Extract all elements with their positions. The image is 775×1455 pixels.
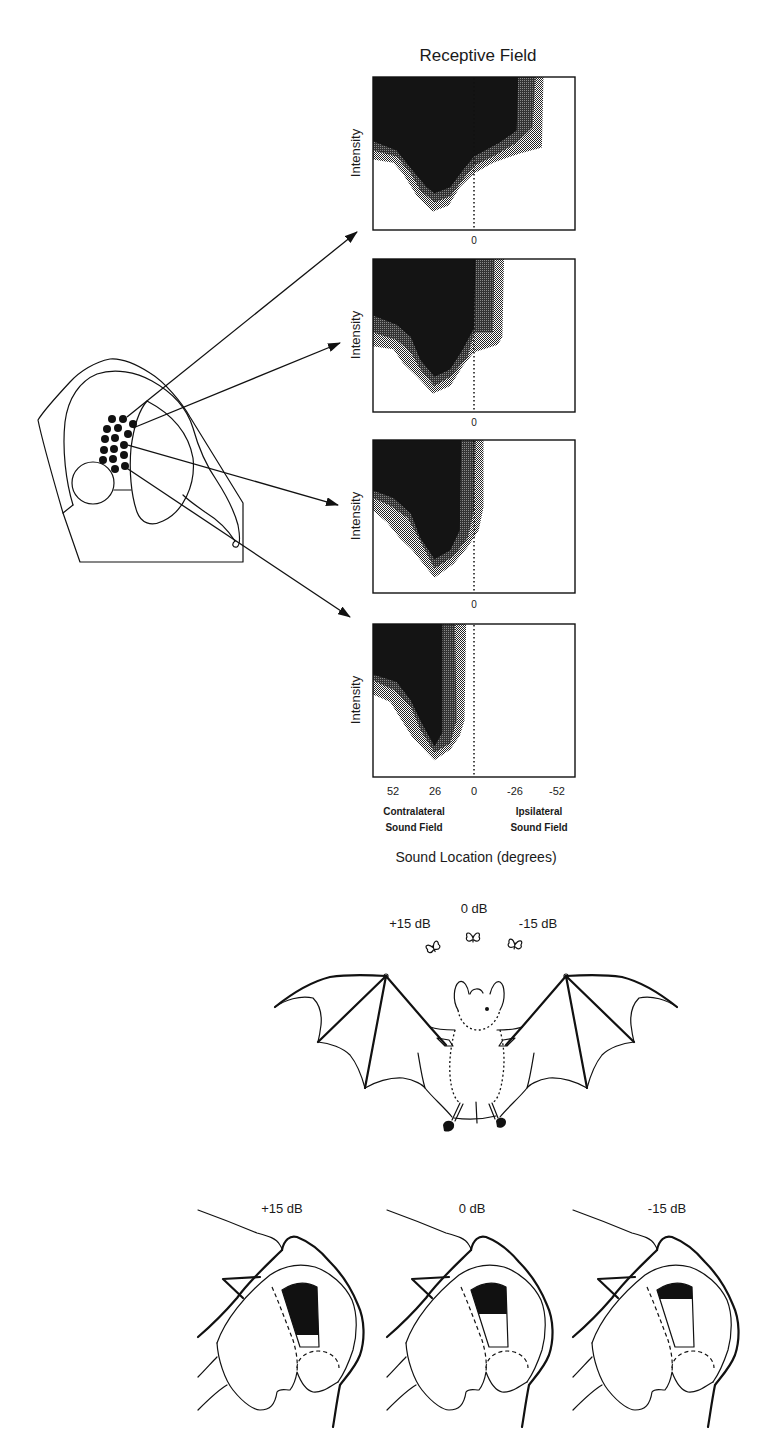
- bat-right-foot: [496, 1118, 506, 1128]
- x-axis-title: Sound Location (degrees): [395, 849, 556, 865]
- target-label-0: 0 dB: [461, 901, 488, 916]
- y-axis-label: Intensity: [348, 491, 363, 540]
- section-label-minus15: -15 dB: [648, 1201, 686, 1216]
- moth-icon: [508, 939, 523, 950]
- bat-left-wing: [275, 974, 455, 1117]
- x-tick-label: -52: [549, 785, 565, 797]
- bat-head-knob: [470, 989, 483, 994]
- brain-section-diagram: [38, 359, 243, 562]
- y-axis-label: Intensity: [348, 128, 363, 177]
- zero-tick-label: 0: [471, 235, 477, 246]
- contralateral-label: Contralateral: [383, 806, 445, 817]
- receptive-field-panel-3: Intensity 0: [348, 440, 575, 610]
- recording-site-dot: [120, 441, 128, 449]
- receptive-field-panel-4: Intensity 52 26 0 -26 -52: [348, 624, 575, 797]
- arrow-to-panel-1: [127, 232, 357, 417]
- x-axis-ticks: 52 26 0 -26 -52: [387, 785, 565, 797]
- receptive-field-contours: [373, 624, 466, 760]
- recording-site-dot: [111, 465, 119, 473]
- bat-head: [454, 981, 504, 1030]
- bat-left-ear: [454, 981, 469, 1010]
- section-label-plus15: +15 dB: [261, 1201, 303, 1216]
- target-label-minus15: -15 dB: [519, 916, 557, 931]
- x-tick-label: 0: [471, 785, 477, 797]
- recording-site-dot: [114, 424, 122, 432]
- recording-site-dot: [111, 434, 119, 442]
- recording-site-dot: [101, 435, 109, 443]
- receptive-field-contours: [373, 440, 484, 578]
- zero-tick-label: 0: [471, 417, 477, 428]
- bat-eye: [485, 1007, 489, 1011]
- target-labels: +15 dB 0 dB -15 dB: [389, 901, 557, 931]
- bat-right-ear: [490, 982, 504, 1010]
- active-region-fill: [657, 1283, 692, 1299]
- x-tick-label: 26: [429, 785, 441, 797]
- recording-site-dot: [119, 415, 127, 423]
- contralateral-label-line2: Sound Field: [385, 822, 442, 833]
- active-region-fill: [471, 1283, 507, 1314]
- y-axis-label: Intensity: [348, 675, 363, 724]
- bat-left-foot: [443, 1121, 454, 1132]
- x-tick-label: -26: [507, 785, 523, 797]
- target-label-plus15: +15 dB: [389, 916, 431, 931]
- recording-site-dot: [124, 430, 132, 438]
- receptive-field-contours: [373, 259, 504, 394]
- receptive-field-panel-1: Intensity 0: [348, 77, 575, 246]
- activation-section-0: [387, 1210, 553, 1427]
- y-axis-label: Intensity: [348, 310, 363, 359]
- arrow-to-panel-2: [133, 343, 340, 428]
- recording-site-dot: [99, 456, 107, 464]
- recording-site-dot: [110, 445, 118, 453]
- zero-tick-label: 0: [471, 599, 477, 610]
- ipsilateral-label-line2: Sound Field: [510, 822, 567, 833]
- figure-title: Receptive Field: [419, 46, 536, 65]
- ipsilateral-label: Ipsilateral: [516, 806, 563, 817]
- activation-section-plus15: [198, 1210, 364, 1427]
- bat-illustration: [275, 974, 677, 1132]
- activation-section-minus15: [573, 1210, 739, 1427]
- brain-lower-contour: [183, 495, 235, 541]
- x-region-labels: Contralateral Sound Field Ipsilateral So…: [383, 806, 567, 833]
- brain-circle-structure: [72, 462, 114, 504]
- contour-band-core: [373, 77, 518, 193]
- section-label-0: 0 dB: [459, 1201, 486, 1216]
- recording-site-dot: [100, 446, 108, 454]
- moths: [425, 933, 522, 954]
- recording-site-dot: [109, 455, 117, 463]
- arrow-to-panel-3: [128, 445, 338, 505]
- recording-site-dot: [103, 425, 111, 433]
- site-to-panel-arrows: [125, 232, 357, 617]
- arrow-to-panel-4: [125, 467, 350, 617]
- brain-connector: [63, 490, 131, 513]
- section-labels: +15 dB 0 dB -15 dB: [261, 1201, 686, 1216]
- figure: Receptive Field Intensity 0 Intensity 0 …: [0, 0, 775, 1455]
- receptive-field-panel-2: Intensity 0: [348, 259, 575, 428]
- brain-outer-outline: [38, 359, 243, 562]
- brain-central-nucleus: [130, 401, 193, 524]
- bat-right-wing: [497, 974, 677, 1117]
- moth-icon: [466, 933, 479, 942]
- recording-site-dot: [108, 415, 116, 423]
- receptive-field-contours: [373, 77, 544, 212]
- bat-head-outline: [458, 1010, 500, 1030]
- moth-icon: [425, 941, 441, 955]
- x-tick-label: 52: [387, 785, 399, 797]
- recording-site-dot: [120, 451, 128, 459]
